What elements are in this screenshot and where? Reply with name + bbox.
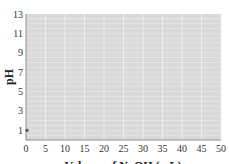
y-tick-label: 1: [18, 125, 23, 136]
x-tick-label: 35: [158, 143, 168, 154]
y-tick-label: 3: [18, 105, 23, 116]
x-tick-labels: 05101520253035404550: [24, 143, 227, 154]
x-tick-label: 15: [80, 143, 90, 154]
data-point: [25, 129, 28, 132]
x-tick-label: 40: [177, 143, 187, 154]
x-tick-label: 0: [24, 143, 29, 154]
y-axis-label: pH: [2, 68, 16, 85]
y-tick-label: 9: [18, 47, 23, 58]
x-tick-label: 25: [119, 143, 129, 154]
x-tick-label: 20: [99, 143, 109, 154]
titration-chart: 05101520253035404550 135791113 pH Volume…: [0, 0, 229, 164]
x-axis-label: Volume of NaOH (mL): [64, 159, 181, 164]
x-tick-label: 30: [138, 143, 148, 154]
y-tick-label: 7: [18, 67, 23, 78]
x-tick-label: 10: [60, 143, 70, 154]
y-tick-label: 11: [13, 28, 23, 39]
x-tick-label: 5: [43, 143, 48, 154]
x-tick-label: 50: [216, 143, 226, 154]
x-tick-label: 45: [197, 143, 207, 154]
y-tick-label: 13: [13, 9, 23, 20]
y-tick-label: 5: [18, 86, 23, 97]
data-points: [25, 129, 28, 132]
